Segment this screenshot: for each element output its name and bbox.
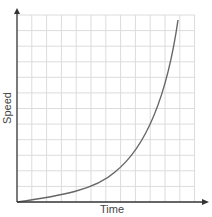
y-axis-label: Speed: [1, 83, 13, 133]
chart: [0, 0, 212, 217]
x-axis-label: Time: [0, 203, 212, 215]
grid: [17, 15, 195, 202]
speed-curve: [17, 20, 178, 202]
